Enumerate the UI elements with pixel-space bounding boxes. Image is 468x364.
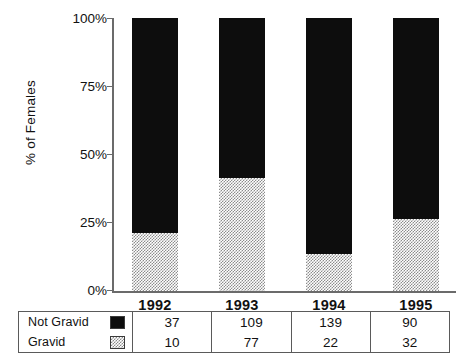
bar-segment-not-gravid-1992 <box>132 18 178 233</box>
bar-segment-gravid-1995 <box>393 219 439 291</box>
legend-cell-gravid: Gravid <box>19 332 133 352</box>
table-cell-not-gravid-1993: 109 <box>212 312 291 332</box>
bars-layer <box>0 0 468 300</box>
table-cell-gravid-1994: 22 <box>292 332 371 352</box>
bar-group-1995 <box>393 18 439 291</box>
table-cell-gravid-1992: 10 <box>133 332 212 352</box>
bar-segment-not-gravid-1994 <box>306 18 352 254</box>
bar-group-1992 <box>132 18 178 291</box>
bar-segment-not-gravid-1995 <box>393 18 439 219</box>
bar-segment-gravid-1993 <box>219 178 265 291</box>
bar-group-1994 <box>306 18 352 291</box>
table-cell-gravid-1993: 77 <box>212 332 291 352</box>
table-row-gravid: Gravid 10 77 22 32 <box>19 332 449 352</box>
bar-segment-gravid-1992 <box>132 233 178 291</box>
legend-data-table: Not Gravid 37 109 139 90 Gravid 10 77 22… <box>18 311 450 353</box>
table-cell-not-gravid-1995: 90 <box>371 312 449 332</box>
black-swatch-icon <box>110 316 125 329</box>
bar-segment-gravid-1994 <box>306 254 352 291</box>
bar-group-1993 <box>219 18 265 291</box>
legend-label-not-gravid: Not Gravid <box>28 316 89 329</box>
table-row-not-gravid: Not Gravid 37 109 139 90 <box>19 312 449 332</box>
bar-segment-not-gravid-1993 <box>219 18 265 178</box>
table-cell-not-gravid-1994: 139 <box>292 312 371 332</box>
legend-cell-not-gravid: Not Gravid <box>19 312 133 332</box>
plot-area: % of Females 100% 75% 50% 25% 0% <box>0 0 468 300</box>
hatched-swatch-icon <box>110 336 125 349</box>
table-cell-gravid-1995: 32 <box>371 332 449 352</box>
legend-label-gravid: Gravid <box>28 336 65 349</box>
stacked-bar-chart-figure: % of Females 100% 75% 50% 25% 0% <box>0 0 468 364</box>
table-cell-not-gravid-1992: 37 <box>133 312 212 332</box>
